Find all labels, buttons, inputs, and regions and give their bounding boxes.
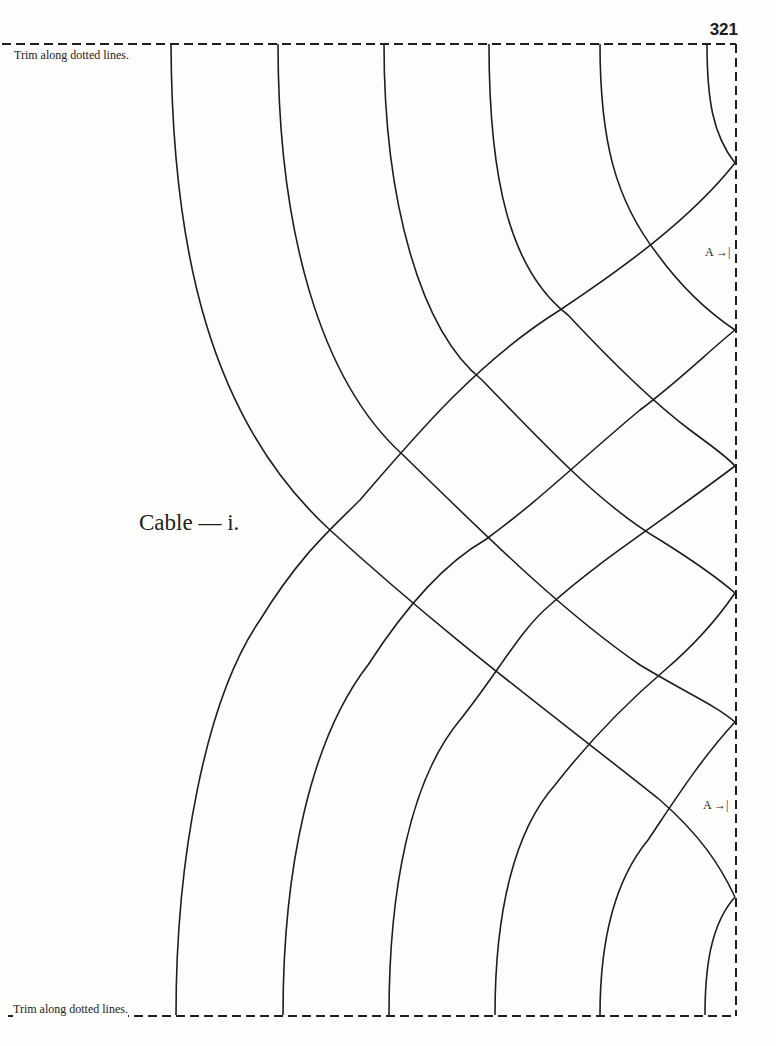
curve-bottom-3 — [389, 466, 735, 1015]
curve-top-2 — [278, 44, 735, 722]
curve-top-4 — [489, 44, 735, 466]
alignment-marker-a-upper: A →| — [705, 245, 730, 260]
pattern-title: Cable — i. — [139, 510, 239, 536]
cable-curves — [171, 44, 735, 1015]
trim-border — [2, 44, 736, 1016]
curve-bottom-4 — [495, 593, 735, 1015]
trim-instruction-top: Trim along dotted lines. — [14, 48, 129, 63]
alignment-marker-a-lower: A →| — [703, 798, 728, 813]
curve-top-6 — [707, 44, 735, 163]
page-number: 321 — [700, 20, 738, 40]
curve-bottom-2 — [283, 330, 735, 1015]
cable-pattern-diagram — [0, 0, 776, 1046]
curve-top-1 — [171, 44, 735, 897]
curve-bottom-1 — [176, 163, 735, 1015]
trim-instruction-bottom: Trim along dotted lines. — [13, 1002, 128, 1017]
template-page: 321 Trim along dotted lines. Trim along … — [0, 0, 776, 1046]
curve-top-3 — [384, 44, 735, 593]
curve-bottom-5 — [600, 722, 735, 1015]
curve-bottom-6 — [705, 897, 735, 1015]
